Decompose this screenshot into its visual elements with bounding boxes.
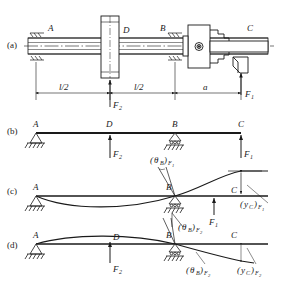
svg-text:2: 2	[208, 273, 211, 278]
point-label-b-A: A	[32, 119, 39, 129]
point-label-a-A: A	[47, 23, 54, 33]
chuck-assembly	[183, 25, 268, 68]
annotation-theta-B-F2-upper: ( θ B ) F 2	[178, 222, 203, 235]
point-label-d-A: A	[32, 230, 39, 240]
point-label-a-D: D	[122, 25, 130, 35]
point-label-c-A: A	[32, 182, 39, 192]
point-label-b-C: C	[238, 119, 245, 129]
dimension-a: a	[203, 82, 208, 92]
panel-c-drawing: ( θ B ) F 1	[0, 153, 287, 228]
support-roller-d-B	[164, 244, 184, 261]
annotation-theta-B-F1: ( θ B ) F 1	[150, 155, 174, 168]
point-label-a-B: B	[160, 23, 166, 33]
dimension-l-half-right: l/2	[134, 82, 144, 92]
svg-text:): )	[199, 265, 203, 275]
svg-text:1: 1	[172, 163, 174, 168]
annotation-theta-B-F2-lower: ( θ B ) F 2	[186, 265, 211, 278]
point-label-d-B: B	[166, 230, 172, 240]
svg-text:): )	[191, 222, 195, 232]
svg-text:F: F	[244, 89, 251, 99]
point-label-d-D: D	[112, 232, 120, 242]
svg-text:θ: θ	[154, 155, 159, 165]
force-label-F1-a: F 1	[244, 89, 254, 100]
support-pin-d-A	[25, 244, 45, 259]
svg-text:1: 1	[262, 207, 264, 212]
svg-text:): )	[250, 265, 254, 275]
deflection-curve-d	[36, 236, 254, 263]
svg-text:): )	[163, 155, 167, 165]
svg-text:θ: θ	[182, 222, 187, 232]
point-label-b-D: D	[105, 119, 113, 129]
point-label-b-B: B	[172, 119, 178, 129]
support-pin-b-A	[25, 133, 45, 148]
cutting-tool	[233, 57, 248, 73]
svg-text:2: 2	[119, 105, 122, 110]
point-label-c-B: B	[166, 182, 172, 192]
gear-disc-d	[101, 16, 119, 78]
point-label-d-C: C	[231, 230, 238, 240]
force-label-F2-d: F 2	[112, 264, 122, 275]
dimension-l-half-left: l/2	[59, 82, 69, 92]
svg-text:y: y	[240, 265, 245, 275]
point-label-a-C: C	[247, 23, 254, 33]
point-label-c-C: C	[231, 185, 238, 195]
svg-text:2: 2	[259, 273, 262, 278]
support-roller-b-B	[164, 133, 184, 150]
force-label-F2-a: F 2	[112, 100, 122, 110]
svg-text:): )	[253, 199, 257, 209]
panel-d-drawing: ( θ B ) F 2	[0, 218, 287, 293]
annotation-y-C-F1: ( y C ) F 1	[240, 199, 264, 212]
svg-text:F: F	[112, 100, 119, 110]
leader-lines-d	[196, 245, 256, 264]
svg-text:2: 2	[119, 269, 122, 275]
svg-text:y: y	[243, 199, 248, 209]
svg-text:F: F	[112, 264, 119, 274]
engineering-figure: (a) (b) (c) (d)	[0, 0, 287, 293]
svg-text:θ: θ	[190, 265, 195, 275]
svg-text:1: 1	[251, 94, 254, 100]
svg-text:2: 2	[200, 230, 203, 235]
annotation-y-C-F2: ( y C ) F 2	[237, 265, 262, 278]
panel-a-drawing: A D B C l/2 l/2 a F 2 F 1	[0, 0, 287, 110]
